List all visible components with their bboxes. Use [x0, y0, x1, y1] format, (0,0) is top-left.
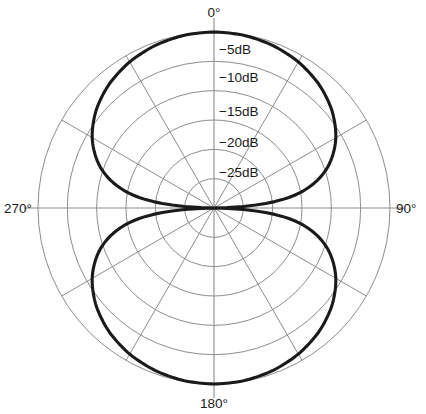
angle-label-180: 180°	[200, 396, 228, 411]
grid-spoke-300deg	[62, 120, 214, 208]
grid-spoke-60deg	[214, 120, 366, 208]
grid-spoke-210deg	[126, 208, 214, 360]
polar-plot-figure: −5dB −10dB −15dB −20dB −25dB 0° 90° 180°…	[0, 0, 426, 414]
radial-tick-label-10db: −10dB	[219, 70, 258, 85]
grid-spoke-240deg	[62, 208, 214, 296]
angle-label-90: 90°	[396, 201, 416, 216]
angle-label-0: 0°	[208, 5, 221, 20]
polar-chart-canvas: −5dB −10dB −15dB −20dB −25dB 0° 90° 180°…	[0, 0, 426, 414]
grid-spoke-150deg	[214, 208, 302, 360]
radial-tick-label-25db: −25dB	[219, 165, 258, 180]
angle-label-270: 270°	[4, 201, 32, 216]
radial-tick-label-15db: −15dB	[219, 104, 258, 119]
radial-tick-label-20db: −20dB	[219, 135, 258, 150]
radial-tick-label-5db: −5dB	[219, 42, 251, 57]
grid-spoke-330deg	[126, 56, 214, 208]
grid-spoke-120deg	[214, 208, 366, 296]
